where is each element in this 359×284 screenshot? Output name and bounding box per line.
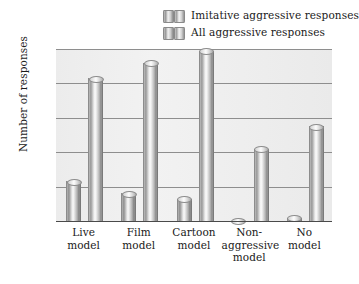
bar xyxy=(309,126,324,221)
cylinder-pair-icon xyxy=(163,27,185,38)
bar-cap xyxy=(254,146,269,153)
bar-cap xyxy=(309,124,324,131)
bar xyxy=(121,193,136,221)
bar xyxy=(177,199,192,221)
bar-cap xyxy=(89,76,104,83)
bar xyxy=(66,181,81,221)
chart-legend: Imitative aggressive responses All aggre… xyxy=(163,8,339,42)
bar-cap xyxy=(122,191,137,198)
legend-label-all: All aggressive responses xyxy=(191,27,325,38)
x-tick-label: Cartoonmodel xyxy=(166,226,221,251)
bar xyxy=(88,78,103,221)
bar-cap xyxy=(199,48,214,55)
x-tick-label: Nomodel xyxy=(277,226,332,251)
x-tick-label: Livemodel xyxy=(56,226,111,251)
cylinder-pair-icon xyxy=(163,10,185,21)
x-tick-label: Filmmodel xyxy=(111,226,166,251)
bar xyxy=(143,63,158,221)
bar-cap xyxy=(67,179,82,186)
x-axis-line xyxy=(56,221,332,222)
y-axis-title: Number of responses xyxy=(17,24,29,164)
legend-item-imitative: Imitative aggressive responses xyxy=(163,8,339,23)
bar-cap xyxy=(177,196,192,203)
legend-label-imitative: Imitative aggressive responses xyxy=(191,10,359,21)
x-tick-label: Non-aggressivemodel xyxy=(222,226,277,264)
gridline-100 xyxy=(56,49,332,50)
bar xyxy=(199,51,214,221)
legend-item-all: All aggressive responses xyxy=(163,25,339,40)
plot-area xyxy=(56,49,332,221)
bar xyxy=(254,149,269,221)
bar-cap xyxy=(144,60,159,67)
